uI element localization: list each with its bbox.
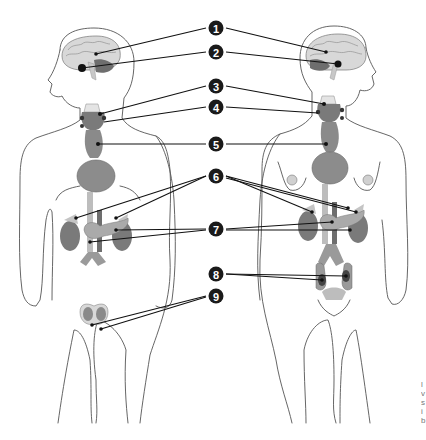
callout-7: 7 — [209, 222, 224, 237]
svg-text:4: 4 — [213, 102, 220, 114]
male-heart — [77, 160, 115, 192]
male-thyroid — [80, 104, 106, 130]
svg-text:7: 7 — [213, 224, 219, 236]
callout-badges: 1 2 3 4 5 6 7 8 9 — [209, 21, 224, 304]
callout-6: 6 — [209, 169, 224, 184]
callout-9: 9 — [209, 289, 224, 304]
callout-4: 4 — [209, 100, 224, 115]
male-figure — [20, 28, 176, 423]
callout-8: 8 — [209, 267, 224, 282]
svg-text:8: 8 — [213, 269, 219, 281]
svg-text:5: 5 — [213, 139, 219, 151]
male-testes — [80, 304, 108, 325]
callout-5: 5 — [209, 137, 224, 152]
female-brain — [306, 34, 366, 80]
male-arm-right — [156, 136, 175, 308]
svg-text:6: 6 — [213, 171, 219, 183]
svg-text:9: 9 — [213, 291, 219, 303]
callout-1: 1 — [209, 21, 224, 36]
female-reproductive — [316, 263, 352, 316]
female-abdomen-organs — [298, 184, 368, 266]
female-thyroid — [316, 96, 344, 122]
female-heart — [312, 152, 348, 184]
female-figure — [258, 26, 408, 423]
female-thymus — [321, 122, 339, 152]
svg-text:3: 3 — [213, 81, 219, 93]
callout-3: 3 — [209, 79, 224, 94]
cropped-edge-text: l v s i b — [421, 380, 426, 425]
svg-text:2: 2 — [213, 47, 219, 59]
male-brain — [62, 36, 120, 80]
callout-2: 2 — [209, 45, 224, 60]
endocrine-diagram: 1 2 3 4 5 6 7 8 9 — [0, 0, 426, 440]
svg-text:1: 1 — [213, 23, 219, 35]
